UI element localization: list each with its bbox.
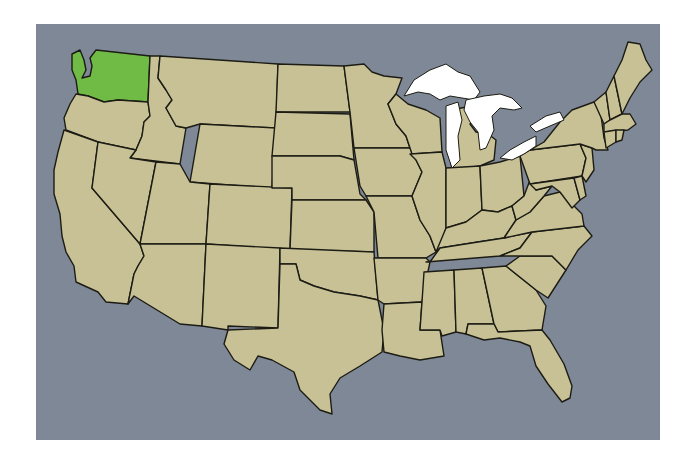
state-washington: Washington <box>72 50 150 102</box>
map-frame: WashingtonOregonCaliforniaIdahoNevadaMon… <box>36 24 660 440</box>
state-north-dakota: North Dakota <box>276 64 350 112</box>
state-south-dakota: South Dakota <box>272 112 354 160</box>
us-map: WashingtonOregonCaliforniaIdahoNevadaMon… <box>36 24 660 440</box>
state-colorado: Colorado <box>206 184 292 250</box>
state-kansas: Kansas <box>290 200 374 252</box>
state-montana: Montana <box>158 56 278 128</box>
state-new-mexico: New Mexico <box>202 244 280 330</box>
state-mississippi: Mississippi <box>420 270 456 336</box>
state-arkansas: Arkansas <box>374 258 430 304</box>
state-wyoming: Wyoming <box>190 124 276 188</box>
